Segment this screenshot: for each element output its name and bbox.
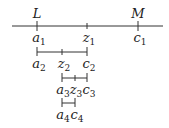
label-z1: z1 (83, 31, 96, 47)
label-a2: a2 (32, 57, 46, 73)
label-a1: a1 (32, 31, 46, 47)
label-c1: c1 (133, 31, 146, 47)
label-z3: z3 (70, 83, 83, 99)
label-L: L (33, 7, 42, 20)
label-c4: c4 (70, 108, 83, 124)
label-c2: c2 (82, 57, 95, 73)
label-a3: a3 (56, 83, 70, 99)
label-M: M (131, 7, 144, 20)
label-c3: c3 (82, 83, 95, 99)
label-a4: a4 (56, 108, 70, 124)
label-z2: z2 (58, 57, 71, 73)
